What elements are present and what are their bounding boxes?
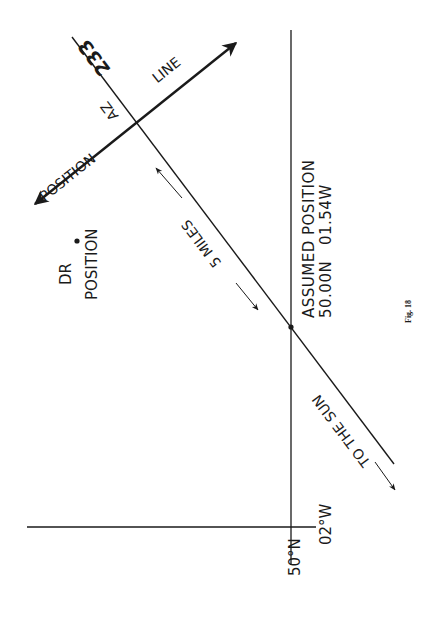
figure-caption: Fig. 18: [404, 300, 413, 323]
position-line-label-position: POSITION: [36, 150, 98, 204]
position-line-label-line: LINE: [149, 54, 183, 86]
intercept-arrow-lower: [236, 283, 258, 310]
assumed-position-dot: [288, 324, 293, 329]
position-line-diagram: DR POSITION ASSUMED POSITION 50.00N 01.5…: [0, 0, 438, 635]
parallel-label: 50°N: [286, 538, 304, 576]
meridian-label: 02°W: [317, 503, 335, 545]
intercept-arrow-upper: [156, 168, 182, 198]
intercept-label: 5 MILES: [178, 217, 224, 271]
to-the-sun-label: TO THE SUN: [309, 392, 374, 471]
dr-position-dot: [74, 238, 79, 243]
dr-position-label-line1: DR: [57, 263, 75, 285]
azimuth-prefix: AZ: [97, 99, 121, 124]
assumed-position-label-line1: ASSUMED POSITION: [300, 160, 318, 318]
azimuth-line: [72, 37, 394, 464]
to-the-sun-arrow: [375, 462, 395, 490]
dr-position-label-line2: POSITION: [83, 229, 101, 300]
azimuth-value: 233: [73, 35, 114, 80]
assumed-position-coordinates: 50.00N 01.54W: [317, 184, 335, 318]
